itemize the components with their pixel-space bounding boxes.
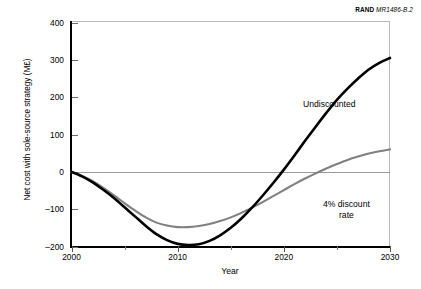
x-tick-label: 2010 [168, 252, 187, 262]
source-credit: RAND MR1486-B.2 [355, 5, 413, 14]
y-tick-label: –200 [45, 242, 64, 252]
x-tick-label: 2030 [381, 252, 400, 262]
chart-figure: RAND MR1486-B.2 Net cost with sole-sourc… [0, 0, 421, 289]
x-axis-title: Year [70, 266, 390, 276]
x-tick-label: 2000 [62, 252, 81, 262]
annotation-discount-line2: rate [323, 210, 370, 221]
x-tick-label: 2020 [275, 252, 294, 262]
annotation-discount-line1: 4% discount [323, 199, 370, 210]
annotation-undiscounted: Undiscounted [303, 99, 356, 110]
y-tick-label: 0 [59, 167, 64, 177]
y-tick-label: 200 [50, 92, 64, 102]
plot-area: 4003002001000–100–200 2000201020202030 U… [70, 21, 390, 248]
rand-logo-text: RAND [355, 6, 374, 13]
y-tick-label: 400 [50, 18, 64, 28]
y-axis-title: Net cost with sole-source strategy (M£) [23, 15, 32, 245]
document-id: MR1486-B.2 [376, 6, 413, 13]
y-tick-label: 300 [50, 55, 64, 65]
y-tick-label: –100 [45, 204, 64, 214]
annotation-discount-rate: 4% discount rate [323, 199, 370, 220]
y-tick-label: 100 [50, 130, 64, 140]
